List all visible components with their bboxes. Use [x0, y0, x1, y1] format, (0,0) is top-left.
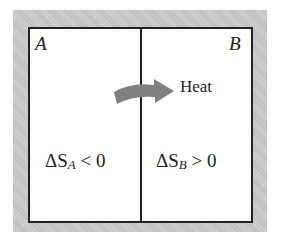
entropy-change-a: ΔSA < 0 [45, 150, 105, 172]
heat-flow-arrow-icon [112, 78, 176, 108]
relation-b: > 0 [187, 150, 217, 171]
subscript-b: B [179, 157, 187, 172]
partition-wall [140, 27, 142, 223]
region-b-label: B [229, 33, 241, 55]
entropy-change-b: ΔSB > 0 [156, 150, 216, 172]
delta-s-b: ΔS [156, 150, 179, 171]
delta-s-a: ΔS [45, 150, 68, 171]
heat-label: Heat [180, 77, 212, 97]
region-a-label: A [35, 33, 47, 55]
subscript-a: A [68, 157, 76, 172]
relation-a: < 0 [76, 150, 106, 171]
